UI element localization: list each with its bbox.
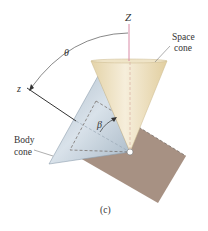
label-Z: Z [125, 11, 132, 23]
contact-point [127, 149, 133, 155]
space-body-cone-diagram: Z z θ β Space cone Body cone (c) [0, 0, 208, 231]
label-space-cone-2: cone [174, 43, 192, 53]
label-body-cone-1: Body [14, 135, 35, 145]
label-z: z [16, 83, 21, 94]
body-axis-z [27, 88, 76, 121]
figure-caption: (c) [100, 205, 111, 216]
label-space-cone-1: Space [172, 32, 195, 42]
label-theta: θ [64, 47, 69, 58]
space-cone-leader [155, 46, 170, 62]
label-body-cone-2: cone [14, 147, 32, 157]
body-cone-leader [34, 150, 53, 156]
label-beta: β [96, 119, 102, 130]
